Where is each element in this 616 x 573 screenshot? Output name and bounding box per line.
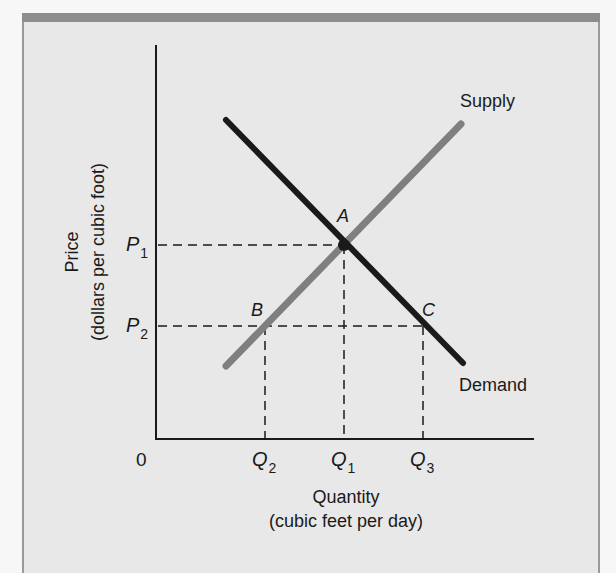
y-axis-title: Price xyxy=(62,231,82,272)
q2-tick-label: Q2 xyxy=(252,448,277,476)
q3-tick-label: Q3 xyxy=(410,448,435,476)
y-axis-subtitle: (dollars per cubic foot) xyxy=(88,163,108,341)
origin-label: 0 xyxy=(136,449,147,470)
guide-lines xyxy=(158,245,423,438)
point-c-label: C xyxy=(422,300,436,320)
equilibrium-point-a xyxy=(338,239,350,251)
demand-label: Demand xyxy=(459,375,527,395)
x-axis-title: Quantity xyxy=(312,487,379,507)
point-b-label: B xyxy=(251,300,263,320)
supply-label: Supply xyxy=(460,91,515,111)
q1-tick-label: Q1 xyxy=(331,448,356,476)
x-axis-subtitle: (cubic feet per day) xyxy=(269,511,423,531)
point-a-label: A xyxy=(336,206,349,226)
p1-tick-label: P1 xyxy=(126,233,148,261)
p2-tick-label: P2 xyxy=(126,314,148,342)
